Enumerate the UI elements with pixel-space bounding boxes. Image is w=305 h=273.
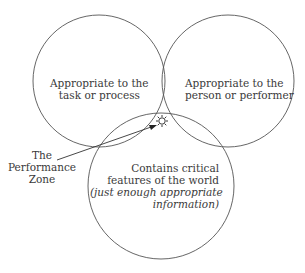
label-world: Contains critical features of the world … [90, 162, 219, 210]
label-zone-line-1: The [4, 149, 80, 161]
sun-star-icon [156, 115, 168, 127]
label-person-line-2: person or performer [185, 89, 295, 101]
venn-diagram [0, 0, 305, 273]
label-world-line-4: information) [90, 198, 219, 210]
label-world-line-2: features of the world [90, 174, 219, 186]
label-person: Appropriate to the person or performer [185, 77, 295, 101]
label-world-line-1: Contains critical [90, 162, 219, 174]
label-zone-line-3: Zone [4, 173, 80, 185]
label-task-line-2: task or process [50, 89, 140, 101]
label-world-line-3: (just enough appropriate [90, 186, 219, 198]
label-task-line-1: Appropriate to the [50, 77, 140, 89]
label-zone-line-2: Performance [4, 161, 80, 173]
label-performance-zone: The Performance Zone [4, 149, 80, 185]
label-task: Appropriate to the task or process [50, 77, 140, 101]
label-person-line-1: Appropriate to the [185, 77, 295, 89]
